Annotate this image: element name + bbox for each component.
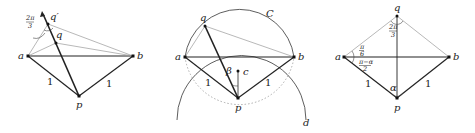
angle-p-alpha: α	[390, 82, 397, 93]
point-q	[55, 42, 58, 45]
point-a	[27, 55, 30, 58]
label-circle-C: C	[266, 8, 274, 19]
diagram-canvas: a b p q′ q 1 1 2π 3 a b p	[0, 0, 475, 133]
label-a: a	[175, 51, 181, 62]
angle-q-den: 3	[391, 31, 395, 39]
edge-label-ap: 1	[365, 78, 371, 89]
point-a	[343, 56, 346, 59]
edge-label-ap: 1	[47, 76, 53, 87]
point-p	[396, 97, 399, 100]
label-beta: β	[225, 65, 232, 76]
label-p: p	[76, 99, 83, 110]
figure-right: a b p q 1 1 2π 3 π 6 π−α 2 α	[335, 2, 459, 113]
edge-label-ap: 1	[205, 77, 211, 88]
label-circle-d: d	[303, 117, 309, 128]
point-a	[184, 56, 187, 59]
point-p	[237, 97, 240, 100]
point-q-prime	[47, 23, 50, 26]
label-p: p	[235, 102, 242, 113]
edge-label-bp: 1	[106, 78, 112, 89]
angle-a-lower-den: 2	[362, 65, 367, 73]
figure-left: a b p q′ q 1 1 2π 3	[18, 11, 143, 110]
point-b	[448, 56, 451, 59]
label-b: b	[453, 51, 459, 62]
label-b: b	[298, 51, 304, 62]
angle-label-num: 2π	[25, 14, 35, 22]
point-q	[204, 25, 207, 28]
label-q: q	[200, 12, 206, 23]
edge-label-bp: 1	[265, 77, 271, 88]
label-b: b	[137, 50, 143, 61]
label-a: a	[18, 50, 24, 61]
label-a: a	[335, 51, 341, 62]
label-q: q	[394, 2, 400, 13]
angle-a-upper-den: 6	[360, 50, 364, 58]
label-c: c	[243, 66, 249, 77]
point-c	[237, 70, 240, 73]
point-b	[293, 56, 296, 59]
figure-middle: a b p q c β 1 1 C d	[175, 8, 309, 128]
point-q	[396, 15, 399, 18]
label-p: p	[394, 102, 401, 113]
edge-label-bp: 1	[425, 78, 431, 89]
label-q-prime: q′	[50, 11, 59, 22]
point-b	[132, 55, 135, 58]
label-q: q	[56, 29, 62, 40]
angle-label-den: 3	[28, 22, 32, 30]
angle-q-num: 2π	[388, 23, 398, 31]
point-p	[78, 95, 81, 98]
